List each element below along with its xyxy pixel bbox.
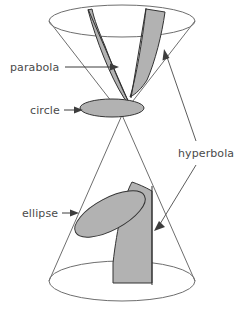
hyperbola-label: hyperbola bbox=[178, 147, 234, 160]
upper-cone-top-rim bbox=[49, 5, 195, 37]
circle-region bbox=[80, 99, 144, 117]
upper-cone-group bbox=[49, 5, 195, 115]
parabola-leader-group bbox=[65, 64, 119, 71]
hyperbola-lower-arrow-head bbox=[154, 221, 165, 231]
conic-sections-svg: parabola circle ellipse hyperbola bbox=[0, 0, 245, 310]
ellipse-leader-group bbox=[62, 210, 79, 217]
conic-sections-figure: parabola circle ellipse hyperbola bbox=[0, 0, 245, 310]
ellipse-label: ellipse bbox=[22, 207, 58, 220]
hyperbola-upper-leader-line bbox=[167, 57, 196, 141]
parabola-label: parabola bbox=[10, 61, 59, 74]
hyperbola-lower-leader-group bbox=[154, 165, 196, 231]
hyperbola-upper-leader-group bbox=[163, 49, 197, 141]
hyperbola-lower-leader-line bbox=[160, 165, 196, 224]
circle-label: circle bbox=[30, 104, 60, 117]
